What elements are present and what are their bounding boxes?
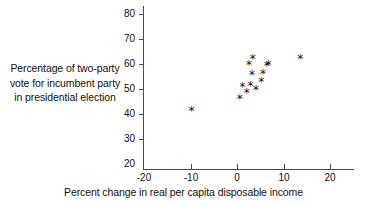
plot-area: 20304050607080-20-1001020************** bbox=[0, 0, 367, 205]
y-axis-tick bbox=[139, 89, 144, 90]
x-axis-tick-label: 10 bbox=[269, 172, 299, 183]
y-axis-tick-label: 20 bbox=[113, 158, 135, 169]
data-point: * bbox=[187, 107, 196, 116]
x-axis-label: Percent change in real per capita dispos… bbox=[0, 186, 367, 198]
x-axis-tick-label: -10 bbox=[176, 172, 206, 183]
y-axis-tick-label: 30 bbox=[113, 133, 135, 144]
y-axis-tick bbox=[139, 39, 144, 40]
y-axis-tick bbox=[139, 64, 144, 65]
x-axis-tick bbox=[284, 164, 285, 169]
x-axis-line bbox=[143, 169, 354, 170]
x-axis-tick bbox=[191, 164, 192, 169]
y-axis-tick bbox=[139, 114, 144, 115]
x-axis-tick-label: 0 bbox=[222, 172, 252, 183]
y-axis-tick-label: 50 bbox=[113, 83, 135, 94]
y-axis-tick-label: 60 bbox=[113, 58, 135, 69]
scatter-chart-figure: Percentage of two-party vote for incumbe… bbox=[0, 0, 367, 205]
data-point: * bbox=[248, 55, 257, 64]
x-axis-tick bbox=[237, 164, 238, 169]
y-axis-tick bbox=[139, 139, 144, 140]
data-point: * bbox=[296, 55, 305, 64]
y-axis-tick-label: 70 bbox=[113, 33, 135, 44]
data-point: * bbox=[247, 71, 256, 80]
x-axis-tick-label: -20 bbox=[129, 172, 159, 183]
y-axis-tick bbox=[139, 14, 144, 15]
data-point: * bbox=[264, 61, 273, 70]
y-axis-line bbox=[143, 6, 144, 170]
y-axis-tick-label: 80 bbox=[113, 8, 135, 19]
x-axis-tick bbox=[330, 164, 331, 169]
y-axis-tick-label: 40 bbox=[113, 108, 135, 119]
x-axis-tick-label: 20 bbox=[315, 172, 345, 183]
